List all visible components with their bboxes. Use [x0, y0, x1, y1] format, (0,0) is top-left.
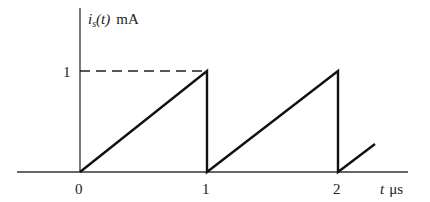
sawtooth-chart: 1 0 1 2 is(t)mA tμs — [0, 0, 430, 202]
y-axis-label: is(t)mA — [88, 11, 139, 29]
x-axis-label: tμs — [380, 181, 403, 197]
x-tick-0: 0 — [75, 181, 83, 197]
x-tick-2: 2 — [333, 181, 341, 197]
x-tick-1: 1 — [202, 181, 210, 197]
sawtooth-waveform — [80, 71, 375, 172]
y-tick-1: 1 — [63, 64, 71, 80]
